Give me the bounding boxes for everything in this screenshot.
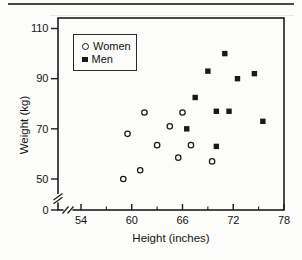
plot-svg: 11090705005460667278 — [0, 0, 302, 260]
x-axis-title: Height (inches) — [110, 231, 232, 245]
x-tick-label: 54 — [75, 214, 87, 226]
data-point-men — [184, 126, 189, 131]
legend-item-men: Men — [82, 53, 136, 66]
y-tick-label: 90 — [36, 72, 48, 84]
data-point-women — [125, 131, 130, 136]
data-point-men — [192, 95, 197, 100]
data-point-women — [209, 159, 214, 164]
y-tick-label: 110 — [31, 22, 49, 34]
data-point-men — [214, 109, 219, 114]
data-point-men — [260, 119, 265, 124]
data-point-women — [180, 110, 185, 115]
y-tick-label: 70 — [36, 123, 48, 135]
data-point-men — [205, 68, 210, 73]
legend-label-men: Men — [92, 53, 113, 66]
x-tick-label: 60 — [126, 214, 138, 226]
legend-item-women: Women — [82, 40, 136, 53]
y-tick-label: 0 — [42, 204, 48, 216]
data-point-women — [154, 142, 159, 147]
data-point-women — [167, 124, 172, 129]
data-point-men — [252, 71, 257, 76]
data-point-men — [214, 144, 219, 149]
y-tick-label: 50 — [36, 173, 48, 185]
open-circle-marker-icon — [82, 43, 89, 50]
data-point-women — [188, 142, 193, 147]
y-axis-title: Weight (kg) — [17, 75, 31, 175]
data-point-women — [138, 168, 143, 173]
data-point-men — [222, 51, 227, 56]
x-tick-label: 66 — [176, 214, 188, 226]
filled-square-marker-icon — [82, 57, 88, 63]
scatter-figure: 11090705005460667278 Weight (kg) Height … — [0, 0, 302, 260]
data-point-women — [121, 176, 126, 181]
data-point-women — [142, 110, 147, 115]
legend-box: Women Men — [73, 34, 137, 71]
x-tick-label: 72 — [227, 214, 239, 226]
data-point-women — [176, 155, 181, 160]
x-tick-label: 78 — [278, 214, 290, 226]
data-point-men — [235, 76, 240, 81]
data-point-men — [226, 109, 231, 114]
legend-label-women: Women — [93, 40, 131, 53]
